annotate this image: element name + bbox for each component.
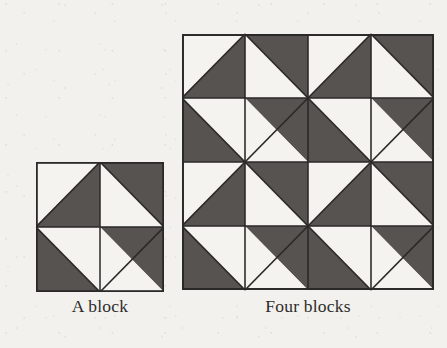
hst-unit-top-right <box>100 162 164 227</box>
four-block-caption: Four blocks <box>196 296 420 317</box>
four-block-figure: #four-block-svg .darkfill { fill: #56535… <box>182 33 434 291</box>
single-block-diagram: .darkfill { fill: #565350; } .lightfill … <box>36 162 164 292</box>
single-block-figure: .darkfill { fill: #565350; } .lightfill … <box>36 162 164 292</box>
hst-unit-bottom-left <box>36 227 100 292</box>
hst-unit-top-left <box>36 162 100 227</box>
figure-area: .darkfill { fill: #565350; } .lightfill … <box>0 0 447 348</box>
single-block-caption: A block <box>0 296 200 317</box>
four-block-diagram: #four-block-svg .darkfill { fill: #56535… <box>182 33 434 291</box>
hst-unit-bottom-right <box>100 227 164 292</box>
